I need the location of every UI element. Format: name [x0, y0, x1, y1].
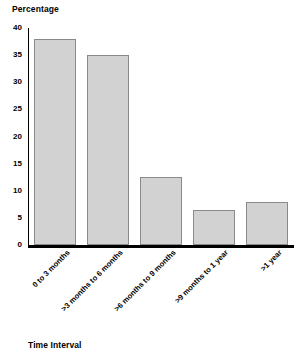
bar-chart: Percentage 0510152025303540 0 to 3 month…	[0, 0, 301, 360]
y-axis-tick-label: 20	[13, 133, 22, 141]
bar	[193, 210, 235, 245]
bar	[140, 177, 182, 245]
y-axis-tick-labels: 0510152025303540	[0, 28, 26, 246]
y-axis-tick-label: 35	[13, 51, 22, 59]
y-axis-tick-label: 0	[18, 241, 22, 249]
y-axis-tick-label: 30	[13, 78, 22, 86]
x-axis-tick-label: 0 to 3 months	[30, 248, 71, 289]
x-axis-tick-label: >1 year	[259, 248, 284, 273]
y-axis-tick-label: 40	[13, 24, 22, 32]
x-axis-tick-label: >6 months to 9 months	[112, 248, 177, 313]
y-axis-tick-label: 5	[18, 214, 22, 222]
y-axis-tick-label: 15	[13, 160, 22, 168]
bar-series	[28, 28, 294, 245]
bar	[246, 202, 288, 245]
y-axis-tick-label: 10	[13, 187, 22, 195]
y-axis-title: Percentage	[12, 4, 59, 14]
bar	[87, 55, 129, 245]
x-axis-tick-labels: 0 to 3 months>3 months to 6 months>6 mon…	[28, 248, 294, 334]
y-axis-tick-label: 25	[13, 105, 22, 113]
x-axis-tick-label: >9 months to 1 year	[173, 248, 230, 305]
x-axis-title: Time Interval	[28, 340, 82, 350]
plot-area	[28, 28, 294, 245]
bar	[34, 39, 76, 245]
